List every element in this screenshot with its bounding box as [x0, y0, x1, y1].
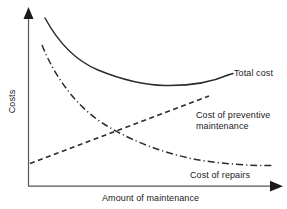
x-axis-title: Amount of maintenance [102, 193, 199, 204]
series-cost-of-repairs-curve [42, 45, 272, 166]
series-label-preventive-maintenance: Cost of preventive maintenance [196, 110, 270, 132]
series-label-total-cost: Total cost [234, 68, 273, 79]
maintenance-cost-chart: Total cost Cost of preventive maintenanc… [0, 0, 287, 209]
y-axis-arrowhead-icon [24, 7, 34, 19]
series-preventive-maintenance-line [30, 96, 209, 164]
y-axis-title: Costs [7, 79, 18, 125]
series-label-cost-of-repairs: Cost of repairs [190, 170, 250, 181]
x-axis-arrowhead-icon [270, 181, 283, 192]
series-label-preventive-maintenance-line2: maintenance [196, 121, 270, 132]
series-label-preventive-maintenance-line1: Cost of preventive [196, 110, 270, 121]
series-total-cost-curve [45, 18, 228, 86]
total-cost-leader-line [228, 74, 233, 76]
